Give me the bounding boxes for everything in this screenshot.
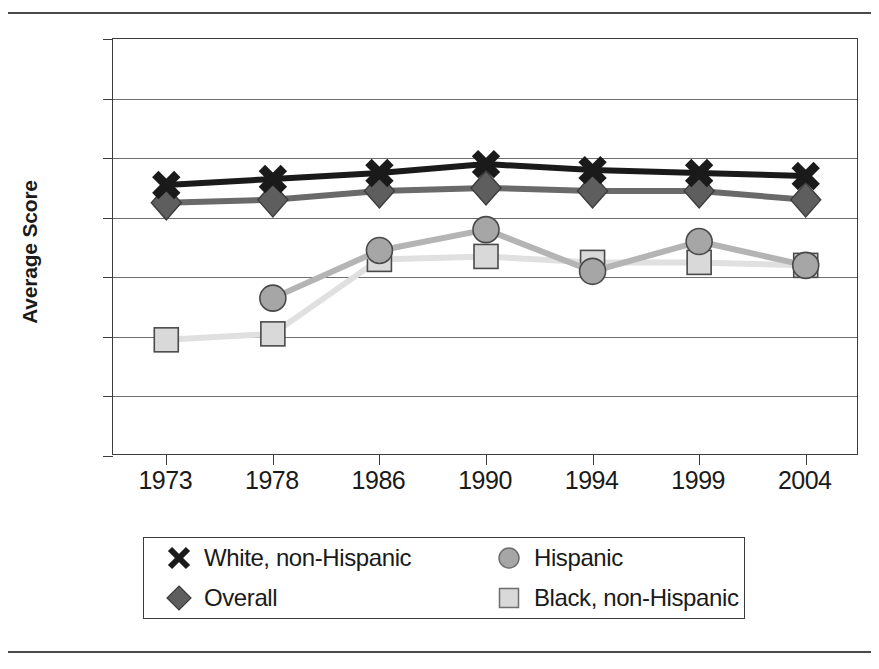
legend-label: White, non-Hispanic — [204, 544, 411, 572]
legend-swatch — [166, 545, 192, 571]
data-point-marker — [366, 237, 392, 263]
y-tick-mark — [103, 337, 113, 338]
y-tick-mark — [103, 99, 113, 100]
data-point-marker — [793, 252, 819, 278]
square-marker-icon — [496, 585, 522, 611]
bottom-horizontal-rule — [8, 651, 871, 653]
data-point-marker — [260, 285, 286, 311]
x-tick-label: 2004 — [750, 466, 860, 495]
x-tick-label: 1973 — [110, 466, 220, 495]
top-horizontal-rule — [8, 12, 871, 14]
legend-label: Overall — [204, 584, 277, 612]
x-tick-label: 1999 — [643, 466, 753, 495]
y-tick-mark — [103, 158, 113, 159]
chart-legend: White, non-HispanicHispanicOverallBlack,… — [143, 537, 745, 619]
data-point-marker — [791, 183, 821, 217]
diamond-marker-icon — [166, 585, 192, 611]
data-point-marker — [471, 171, 501, 205]
legend-item[interactable]: Black, non-Hispanic — [496, 584, 744, 612]
data-point-marker — [261, 322, 285, 346]
circle-marker-icon — [496, 545, 522, 571]
series-plot — [113, 39, 859, 456]
series-black-non-hispanic — [154, 244, 817, 351]
y-tick-mark — [103, 39, 113, 40]
legend-item[interactable]: White, non-Hispanic — [166, 544, 496, 572]
legend-label: Hispanic — [534, 544, 623, 572]
y-axis-title: Average Score — [18, 152, 42, 352]
data-point-marker — [154, 328, 178, 352]
x-tick-label: 1990 — [430, 466, 540, 495]
y-tick-mark — [103, 456, 113, 457]
chart-figure: Average Score 200220240260280300320340 1… — [0, 0, 879, 669]
y-tick-mark — [103, 277, 113, 278]
y-tick-mark — [103, 396, 113, 397]
legend-swatch — [496, 585, 522, 611]
legend-label: Black, non-Hispanic — [534, 584, 739, 612]
data-point-marker — [473, 217, 499, 243]
legend-item[interactable]: Hispanic — [496, 544, 744, 572]
x-tick-label: 1978 — [217, 466, 327, 495]
x-tick-label: 1994 — [537, 466, 647, 495]
x-tick-label: 1986 — [323, 466, 433, 495]
plot-area — [112, 38, 858, 455]
x-cross-marker-icon — [166, 545, 192, 571]
data-point-marker — [580, 258, 606, 284]
data-point-marker — [474, 244, 498, 268]
data-point-marker — [686, 229, 712, 255]
y-tick-mark — [103, 218, 113, 219]
legend-item[interactable]: Overall — [166, 584, 496, 612]
legend-swatch — [496, 545, 522, 571]
legend-swatch — [166, 585, 192, 611]
